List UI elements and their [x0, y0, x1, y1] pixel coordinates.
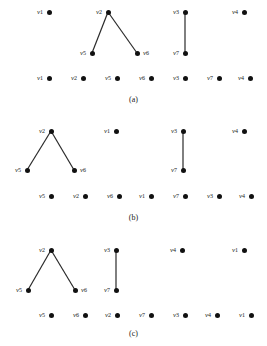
graph-node-v3	[183, 313, 188, 318]
node-label-subscript: 3	[210, 193, 213, 199]
node-label-subscript: 5	[83, 50, 86, 56]
node-label-v5: v5	[39, 312, 47, 319]
node-label-v3: v3	[171, 128, 179, 135]
node-label-subscript: 2	[99, 9, 102, 15]
graph-node-v1	[149, 194, 154, 199]
node-label-v6: v6	[78, 167, 86, 174]
node-label-subscript: 4	[235, 9, 238, 15]
node-label-subscript: 1	[142, 193, 145, 199]
node-label-v3: v3	[207, 193, 215, 200]
node-label-v2: v2	[73, 193, 81, 200]
graph-edge	[27, 131, 51, 170]
graph-node-v3	[114, 248, 119, 253]
node-label-subscript: 6	[110, 193, 113, 199]
node-label-subscript: 7	[176, 50, 179, 56]
node-label-v4: v4	[232, 128, 240, 135]
node-label-subscript: 2	[74, 75, 77, 81]
node-label-subscript: 7	[107, 287, 110, 293]
graph-edge	[51, 131, 74, 170]
node-label-subscript: 2	[108, 312, 111, 318]
node-label-v3: v3	[104, 247, 112, 254]
graph-node-v2	[83, 194, 88, 199]
graph-node-v1	[242, 248, 247, 253]
node-label-subscript: 4	[173, 247, 176, 253]
graph-node-v7	[217, 76, 222, 81]
node-label-v2: v2	[71, 75, 79, 82]
graph-node-v7	[183, 51, 188, 56]
node-label-subscript: 1	[40, 9, 43, 15]
node-label-subscript: 5	[42, 193, 45, 199]
graph-node-v6	[72, 168, 77, 173]
node-label-v5: v5	[80, 50, 88, 57]
node-label-subscript: 4	[242, 193, 245, 199]
node-label-subscript: 7	[142, 312, 145, 318]
graph-node-v6	[73, 288, 78, 293]
graph-node-v2	[49, 129, 54, 134]
graph-node-v6	[83, 313, 88, 318]
graph-edge	[108, 12, 137, 53]
graph-node-v7	[183, 194, 188, 199]
graph-node-v1	[114, 129, 119, 134]
node-label-v3: v3	[173, 75, 181, 82]
node-label-subscript: 4	[241, 75, 244, 81]
node-label-subscript: 4	[208, 312, 211, 318]
node-label-v7: v7	[173, 50, 181, 57]
panel-caption: (c)	[0, 329, 267, 338]
node-label-v1: v1	[37, 75, 45, 82]
node-label-subscript: 1	[40, 75, 43, 81]
node-label-v5: v5	[16, 287, 24, 294]
node-label-subscript: 6	[84, 287, 87, 293]
node-label-subscript: 3	[107, 247, 110, 253]
node-label-subscript: 7	[174, 167, 177, 173]
panel-caption: (b)	[0, 213, 267, 222]
graph-node-v3	[183, 10, 188, 15]
panel-caption: (a)	[0, 95, 267, 104]
graph-node-v5	[49, 194, 54, 199]
node-label-v1: v1	[104, 128, 112, 135]
node-label-v7: v7	[173, 193, 181, 200]
graph-node-v2	[106, 10, 111, 15]
graph-node-v5	[115, 76, 120, 81]
node-label-v6: v6	[141, 50, 149, 57]
graph-node-v4	[242, 129, 247, 134]
node-label-subscript: 2	[76, 193, 79, 199]
node-label-v6: v6	[139, 75, 147, 82]
node-label-v7: v7	[104, 287, 112, 294]
node-label-v2: v2	[105, 312, 113, 319]
graph-node-v7	[149, 313, 154, 318]
graph-node-v3	[217, 194, 222, 199]
node-label-v3: v3	[173, 312, 181, 319]
node-label-v5: v5	[15, 167, 23, 174]
graph-node-v4	[242, 10, 247, 15]
node-label-subscript: 6	[146, 50, 149, 56]
node-label-v2: v2	[39, 128, 47, 135]
graph-node-v1	[249, 313, 254, 318]
node-label-subscript: 7	[176, 193, 179, 199]
edge-layer	[0, 0, 267, 346]
graph-node-v6	[117, 194, 122, 199]
node-label-subscript: 5	[42, 312, 45, 318]
node-label-subscript: 6	[76, 312, 79, 318]
node-label-subscript: 3	[176, 312, 179, 318]
node-label-v1: v1	[232, 247, 240, 254]
node-label-v2: v2	[96, 9, 104, 16]
node-label-subscript: 3	[174, 128, 177, 134]
node-label-v6: v6	[73, 312, 81, 319]
graph-node-v5	[49, 313, 54, 318]
graph-node-v4	[180, 248, 185, 253]
node-label-v2: v2	[39, 247, 47, 254]
node-label-v6: v6	[107, 193, 115, 200]
node-label-subscript: 1	[107, 128, 110, 134]
node-label-subscript: 6	[142, 75, 145, 81]
node-label-v6: v6	[79, 287, 87, 294]
node-label-subscript: 5	[108, 75, 111, 81]
node-label-subscript: 1	[242, 312, 245, 318]
graph-node-v6	[135, 51, 140, 56]
graph-node-v2	[115, 313, 120, 318]
node-label-subscript: 5	[18, 167, 21, 173]
graph-node-v3	[181, 129, 186, 134]
graph-figure: v1v2v5v6v3v7v4v1v2v5v6v3v7v4(a)v2v5v6v1v…	[0, 0, 267, 346]
graph-node-v2	[81, 76, 86, 81]
graph-edge	[51, 250, 75, 290]
graph-node-v4	[248, 76, 253, 81]
